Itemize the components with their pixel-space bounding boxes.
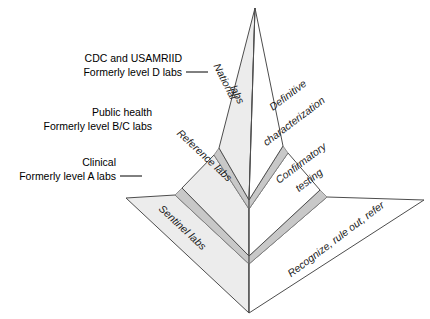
callout-national-line1: CDC and USAMRIID bbox=[85, 52, 183, 64]
callout-reference-line2: Formerly level B/C labs bbox=[43, 120, 152, 132]
callout-sentinel: Clinical Formerly level A labs bbox=[19, 156, 142, 182]
pyramid-diagram: National labs Reference labs Sentinel la… bbox=[0, 0, 430, 319]
callout-reference: Public health Formerly level B/C labs bbox=[43, 106, 152, 132]
callout-sentinel-line2: Formerly level A labs bbox=[19, 170, 116, 182]
callout-national-line2: Formerly level D labs bbox=[83, 66, 182, 78]
callout-reference-line1: Public health bbox=[92, 106, 152, 118]
callout-sentinel-line1: Clinical bbox=[82, 156, 116, 168]
callout-national: CDC and USAMRIID Formerly level D labs bbox=[83, 52, 208, 78]
